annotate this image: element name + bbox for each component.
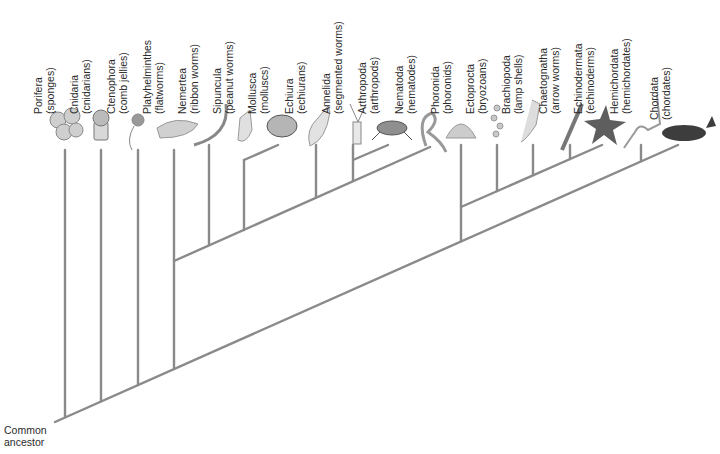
taxon-common-name: (phoronids) <box>441 61 453 114</box>
taxon-label-nemertea: Nemertea (ribbon worms) <box>176 44 200 114</box>
ancestor-line1: Common <box>4 424 47 436</box>
taxon-common-name: (molluscs) <box>258 66 270 114</box>
taxon-label-hemichordata: Hemichordata (hemichordates) <box>608 38 632 114</box>
taxon-label-cnidaria: Cnidaria (cnidarians) <box>68 59 92 114</box>
taxon-name: Annelida <box>320 21 332 114</box>
taxon-name: Echinodermata <box>572 43 584 114</box>
taxon-label-mollusca: Mollusca (molluscs) <box>246 66 270 114</box>
taxon-name: Phoronida <box>429 61 441 114</box>
taxon-label-phoronida: Phoronida (phoronids) <box>429 61 453 114</box>
taxon-name: Chordata <box>648 67 660 120</box>
taxon-label-echinodermata: Echinodermata (echinoderms) <box>572 43 596 114</box>
main-trunk <box>55 145 678 422</box>
taxon-common-name: (segmented worms) <box>332 21 344 114</box>
common-ancestor-label: Common ancestor <box>4 424 47 448</box>
taxon-common-name: (arrow worms) <box>549 47 561 114</box>
branch-mollusca <box>244 145 278 160</box>
taxon-label-nematoda: Nematoda (nematodes) <box>393 55 417 114</box>
taxon-common-name: (echiurans) <box>295 61 307 114</box>
ancestor-line2: ancestor <box>4 436 47 448</box>
taxon-common-name: (cnidarians) <box>80 59 92 114</box>
taxon-name: Echiura <box>283 61 295 114</box>
taxon-name: Nematoda <box>393 55 405 114</box>
crab-icon <box>372 121 412 140</box>
taxon-name: Ctenophora <box>105 52 117 114</box>
taxon-common-name: (ribbon worms) <box>188 44 200 114</box>
taxon-name: Platyhelminthes <box>141 40 153 114</box>
comb-jelly-icon <box>129 114 144 150</box>
taxon-name: Chaetognatha <box>537 47 549 114</box>
taxon-name: Sipuncula <box>211 41 223 114</box>
taxon-common-name: (hemichordates) <box>620 38 632 114</box>
taxon-label-echiura: Echiura (echiurans) <box>283 61 307 114</box>
taxon-common-name: (bryozoans) <box>476 59 488 114</box>
taxon-common-name: (echinoderms) <box>584 43 596 114</box>
taxon-name: Hemichordata <box>608 38 620 114</box>
peanut-worm-icon <box>238 110 252 141</box>
taxon-label-platyhelminthes: Platyhelminthes (flatworms) <box>141 40 165 114</box>
taxon-common-name: (peanut worms) <box>223 41 235 114</box>
taxon-name: Arthropoda <box>356 57 368 114</box>
taxon-common-name: (chordates) <box>660 67 672 120</box>
taxon-common-name: (arthropods) <box>368 57 380 114</box>
taxon-name: Ectoprocta <box>464 59 476 114</box>
taxon-label-ectoprocta: Ectoprocta (bryozoans) <box>464 59 488 114</box>
lophophorate-branch <box>461 145 602 207</box>
flatworm-icon <box>157 120 198 138</box>
sea-anemone-icon <box>93 110 109 140</box>
taxon-label-chordata: Chordata (chordates) <box>648 67 672 120</box>
branch-arthropoda <box>353 145 388 160</box>
taxon-name: Nemertea <box>176 44 188 114</box>
taxon-label-annelida: Annelida (segmented worms) <box>320 21 344 114</box>
phoronid-icon <box>446 124 476 138</box>
taxon-label-brachiopoda: Brachiopoda (lamp shells) <box>500 54 524 114</box>
taxon-label-porifera: Porifera (sponges) <box>32 67 56 114</box>
taxon-common-name: (flatworms) <box>153 40 165 114</box>
taxon-common-name: (lamp shells) <box>512 54 524 114</box>
taxon-label-ctenophora: Ctenophora (comb jellies) <box>105 52 129 114</box>
protostome-branch <box>174 147 430 261</box>
nematode-icon <box>422 113 446 152</box>
taxon-label-chaetognatha: Chaetognatha (arrow worms) <box>537 47 561 114</box>
taxon-label-arthropoda: Arthropoda (arthropods) <box>356 57 380 114</box>
taxon-common-name: (sponges) <box>44 67 56 114</box>
taxon-label-sipuncula: Sipuncula (peanut worms) <box>211 41 235 114</box>
taxon-name: Cnidaria <box>68 59 80 114</box>
taxon-name: Porifera <box>32 67 44 114</box>
taxon-common-name: (nematodes) <box>405 55 417 114</box>
taxon-name: Brachiopoda <box>500 54 512 114</box>
mollusc-shell-icon <box>267 115 297 137</box>
taxon-name: Mollusca <box>246 66 258 114</box>
taxon-common-name: (comb jellies) <box>117 52 129 114</box>
